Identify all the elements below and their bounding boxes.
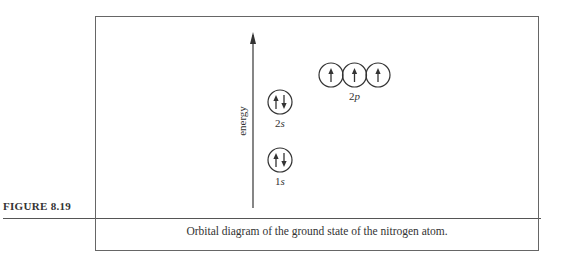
energy-axis-label: energy [236,106,248,136]
subshell-label-1s: 1s [275,175,285,187]
orbital-circle [268,90,292,114]
subshell-2p: 2p [319,63,390,102]
subshell-2s: 2s [268,90,292,129]
spin-up-arrow-icon [273,153,278,167]
spin-up-arrow-icon [375,68,380,82]
spin-down-arrow-icon [281,95,286,109]
subshell-1s: 1s [268,148,292,187]
orbital-2p-2 [343,63,367,87]
energy-axis: energy [236,32,256,208]
subshell-label-2p: 2p [349,90,361,102]
orbital-group: 1s2s2p [268,63,390,187]
orbital-circle [268,148,292,172]
orbital-2p-1 [319,63,343,87]
spin-up-arrow-icon [328,68,333,82]
subshell-label-2s: 2s [275,117,285,129]
spin-up-arrow-icon [352,68,357,82]
orbital-2s-1 [268,90,292,114]
orbital-2p-3 [366,63,390,87]
spin-down-arrow-icon [281,153,286,167]
spin-up-arrow-icon [273,95,278,109]
energy-axis-arrowhead-icon [250,32,256,44]
figure-caption: Orbital diagram of the ground state of t… [95,225,539,237]
orbital-1s-1 [268,148,292,172]
